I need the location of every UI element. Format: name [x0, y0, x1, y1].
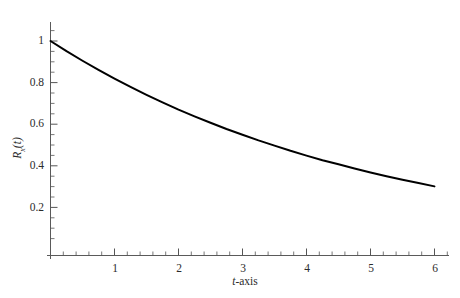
y-axis-title-argument: (t) — [11, 137, 23, 148]
x-axis-major-ticks — [115, 249, 435, 256]
x-tick-label-2: 2 — [165, 263, 193, 275]
y-tick-label-0.2: 0.2 — [12, 202, 44, 214]
y-tick-label-0.8: 0.8 — [12, 77, 44, 89]
y-tick-label-1: 1 — [12, 35, 44, 47]
y-axis-major-ticks — [51, 41, 58, 207]
y-axis-title: Rx(t) — [11, 137, 26, 158]
x-tick-label-1: 1 — [101, 263, 129, 275]
x-axis-title: t-axis — [215, 276, 275, 288]
y-axis-title-wrapper: Rx(t) — [10, 118, 28, 178]
axis-lines — [47, 22, 449, 259]
plot-area — [0, 0, 460, 298]
x-axis-title-suffix: -axis — [235, 275, 257, 287]
x-tick-label-5: 5 — [357, 263, 385, 275]
x-tick-label-4: 4 — [293, 263, 321, 275]
x-tick-label-3: 3 — [229, 263, 257, 275]
data-series-line — [51, 41, 435, 186]
x-axis-minor-ticks — [63, 252, 447, 256]
y-axis-title-subscript: x — [18, 148, 27, 152]
y-axis-title-symbol: R — [11, 152, 23, 159]
chart-figure: 1 0.8 0.6 0.4 0.2 1 2 3 4 5 6 Rx(t) t-ax… — [0, 0, 460, 298]
x-tick-label-6: 6 — [421, 263, 449, 275]
